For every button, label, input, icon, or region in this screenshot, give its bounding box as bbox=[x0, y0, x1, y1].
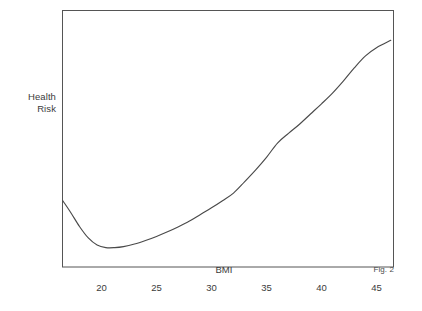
figure-container: Health Risk BMI Fig. 2 202530354045 bbox=[0, 0, 422, 311]
x-tick-label-45: 45 bbox=[364, 282, 390, 293]
x-tick-label-35: 35 bbox=[254, 282, 280, 293]
x-axis-label: BMI bbox=[206, 264, 242, 276]
y-axis-label-line-2: Risk bbox=[8, 103, 56, 115]
x-tick-label-25: 25 bbox=[144, 282, 170, 293]
x-tick-label-30: 30 bbox=[199, 282, 225, 293]
x-tick-label-20: 20 bbox=[89, 282, 115, 293]
y-axis-label: Health Risk bbox=[8, 91, 56, 115]
y-axis-label-line-1: Health bbox=[8, 91, 56, 103]
x-tick-label-40: 40 bbox=[309, 282, 335, 293]
figure-caption: Fig. 2 bbox=[356, 264, 394, 276]
